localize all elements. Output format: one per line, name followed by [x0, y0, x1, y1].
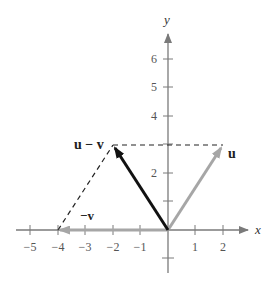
y-tick-label: 2 [151, 166, 157, 180]
vector-subtraction-diagram: x y −5 −4 −3 −2 −1 1 2 2 4 5 6 [0, 0, 275, 289]
x-tick-label: −1 [134, 240, 147, 254]
x-tick-label: −5 [24, 240, 37, 254]
x-axis-label: x [254, 222, 261, 237]
vector-u-label: u [228, 146, 236, 161]
y-tick-label: 4 [151, 109, 157, 123]
vector-u: u [168, 146, 236, 230]
x-tick-label: 1 [192, 240, 198, 254]
y-axis: y [162, 12, 170, 273]
y-tick-label: 5 [151, 80, 157, 94]
vector-u-minus-v-label: u − v [74, 137, 104, 152]
x-tick-label: −2 [107, 240, 120, 254]
x-tick-label: 2 [220, 240, 226, 254]
x-tick-label: −4 [52, 240, 65, 254]
vector-neg-v-label: −v [80, 208, 94, 223]
y-axis-label: y [162, 12, 170, 27]
vector-neg-v: −v [60, 208, 168, 230]
y-tick-label: 6 [151, 52, 157, 66]
x-tick-label: −3 [79, 240, 92, 254]
